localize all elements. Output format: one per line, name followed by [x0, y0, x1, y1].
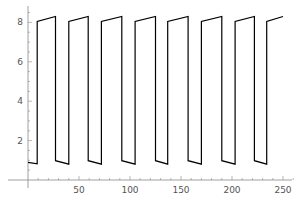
y-tick-label: 8: [17, 17, 23, 27]
tick-labels: 501001502002502468: [17, 17, 292, 195]
y-tick-label: 4: [17, 96, 23, 106]
x-tick-label: 200: [223, 185, 240, 195]
data-series-line: [28, 17, 283, 165]
line-chart: 501001502002502468: [0, 0, 304, 202]
y-tick-label: 2: [17, 136, 23, 146]
x-tick-label: 250: [274, 185, 291, 195]
x-tick-label: 150: [172, 185, 189, 195]
x-tick-label: 100: [121, 185, 138, 195]
x-tick-label: 50: [73, 185, 85, 195]
y-tick-label: 6: [17, 57, 23, 67]
axes: [8, 6, 292, 188]
axis-ticks: [28, 13, 293, 180]
